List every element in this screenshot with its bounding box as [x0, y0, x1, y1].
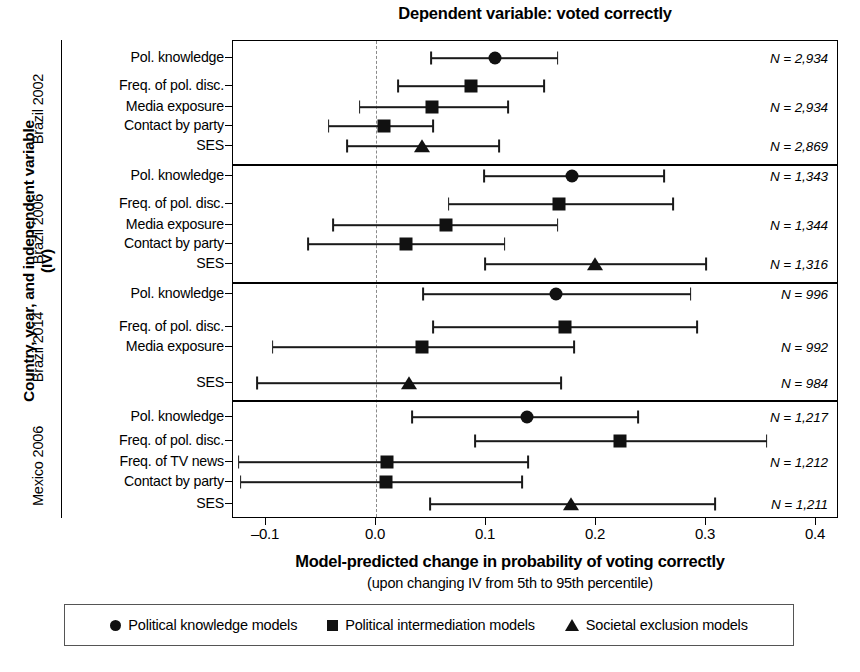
ci-cap-low: [346, 140, 348, 153]
point-marker-circle: [565, 170, 578, 183]
plot-area: N = 2,934N = 2,934N = 2,869N = 1,343N = …: [232, 40, 838, 518]
legend-marker-triangle-icon: [565, 619, 579, 631]
x-tick-label: –0.1: [251, 525, 279, 542]
ci-cap-low: [238, 456, 240, 469]
x-axis-title: Model-predicted change in probability of…: [160, 552, 860, 571]
sample-size-label: N = 1,343: [770, 169, 828, 184]
ci-cap-high: [637, 411, 639, 424]
ci-cap-low: [328, 120, 330, 133]
x-tick: [815, 518, 816, 525]
row-tick: [225, 224, 232, 225]
point-marker-square: [379, 476, 392, 489]
point-marker-square: [559, 321, 572, 334]
row-label: Pol. knowledge: [131, 168, 224, 183]
row-label: Freq. of pol. disc.: [119, 433, 224, 448]
point-marker-square: [614, 435, 627, 448]
point-marker-triangle: [401, 376, 417, 389]
row-tick: [225, 461, 232, 462]
ci-cap-high: [507, 101, 509, 114]
zero-reference-line: [376, 41, 377, 517]
point-marker-triangle: [563, 497, 579, 510]
row-label: Pol. knowledge: [131, 409, 224, 424]
legend-item: Societal exclusion models: [565, 617, 748, 633]
ci-cap-low: [307, 238, 309, 251]
legend-item: Political knowledge models: [110, 617, 297, 633]
row-label: SES: [196, 138, 224, 153]
ci-cap-high: [543, 80, 545, 93]
row-tick: [225, 326, 232, 327]
row-label: Pol. knowledge: [131, 50, 224, 65]
row-tick: [225, 346, 232, 347]
row-label: Media exposure: [126, 339, 224, 354]
row-tick: [225, 416, 232, 417]
chart-title: Dependent variable: voted correctly: [232, 4, 838, 23]
row-label: SES: [196, 375, 224, 390]
sample-size-label: N = 992: [781, 340, 828, 355]
panel-divider: [233, 400, 837, 402]
ci-cap-low: [359, 101, 361, 114]
x-tick-label: 0.0: [365, 525, 385, 542]
ci-cap-high: [557, 219, 559, 232]
sample-size-label: N = 996: [781, 287, 828, 302]
sample-size-label: N = 1,217: [770, 410, 828, 425]
x-tick-label: 0.3: [695, 525, 715, 542]
point-marker-square: [381, 456, 394, 469]
row-label: Freq. of TV news: [119, 454, 224, 469]
row-tick: [225, 382, 232, 383]
row-tick: [225, 125, 232, 126]
row-label: Contact by party: [124, 118, 224, 133]
panel-divider: [233, 282, 837, 284]
point-marker-square: [416, 341, 429, 354]
ci-cap-low: [429, 498, 431, 511]
row-tick: [225, 481, 232, 482]
legend-label: Societal exclusion models: [586, 617, 748, 633]
ci-cap-high: [663, 170, 665, 183]
row-label: Pol. knowledge: [131, 286, 224, 301]
panel-divider: [233, 164, 837, 166]
ci-cap-low: [448, 198, 450, 211]
point-marker-circle: [488, 52, 501, 65]
legend: Political knowledge modelsPolitical inte…: [64, 604, 794, 646]
row-label: Freq. of pol. disc.: [119, 196, 224, 211]
row-tick: [225, 503, 232, 504]
point-marker-square: [426, 101, 439, 114]
legend-label: Political knowledge models: [128, 617, 297, 633]
ci-cap-high: [521, 476, 523, 489]
row-tick: [225, 263, 232, 264]
row-label: Media exposure: [126, 99, 224, 114]
row-tick: [225, 85, 232, 86]
ci-cap-low: [432, 321, 434, 334]
sample-size-label: N = 1,344: [770, 218, 828, 233]
ci-cap-high: [766, 435, 768, 448]
ci-cap-low: [422, 288, 424, 301]
ci-cap-high: [557, 52, 559, 65]
x-axis-subtitle: (upon changing IV from 5th to 95th perce…: [160, 575, 860, 591]
row-tick: [225, 106, 232, 107]
ci-cap-high: [705, 258, 707, 271]
x-tick: [375, 518, 376, 525]
figure-root: Dependent variable: voted correctly Coun…: [0, 0, 860, 672]
ci-cap-low: [484, 258, 486, 271]
row-tick: [225, 293, 232, 294]
ci-cap-low: [474, 435, 476, 448]
x-tick: [595, 518, 596, 525]
legend-marker-circle-icon: [110, 620, 121, 631]
x-tick-label: 0.1: [475, 525, 495, 542]
sample-size-label: N = 984: [781, 376, 828, 391]
point-marker-square: [377, 120, 390, 133]
row-tick: [225, 145, 232, 146]
row-tick: [225, 57, 232, 58]
x-tick-label: 0.2: [585, 525, 605, 542]
sample-size-label: N = 1,211: [771, 497, 828, 512]
row-tick: [225, 440, 232, 441]
row-label-column: Pol. knowledgeFreq. of pol. disc.Media e…: [64, 0, 224, 672]
ci-cap-low: [483, 170, 485, 183]
ci-cap-high: [672, 198, 674, 211]
ci-cap-high: [696, 321, 698, 334]
sample-size-label: N = 1,212: [770, 455, 828, 470]
point-marker-triangle: [414, 139, 430, 152]
legend-label: Political intermediation models: [345, 617, 535, 633]
sample-size-label: N = 2,934: [770, 51, 828, 66]
row-tick: [225, 243, 232, 244]
x-tick: [265, 518, 266, 525]
